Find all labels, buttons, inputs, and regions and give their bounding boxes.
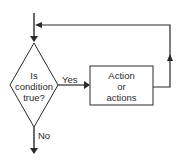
- no-label: No: [38, 130, 50, 141]
- yes-label: Yes: [62, 74, 78, 85]
- loop-up-arrowhead-icon: [167, 54, 173, 61]
- decision-line-2: condition: [10, 81, 58, 92]
- action-line-2: or: [90, 81, 153, 92]
- decision-label: Is condition true?: [10, 70, 58, 103]
- action-label: Action or actions: [90, 70, 153, 103]
- decision-line-1: Is: [10, 70, 58, 81]
- action-line-3: actions: [90, 92, 153, 103]
- loop-join-arrowhead-icon: [35, 22, 42, 28]
- decision-line-3: true?: [10, 92, 58, 103]
- action-line-1: Action: [90, 70, 153, 81]
